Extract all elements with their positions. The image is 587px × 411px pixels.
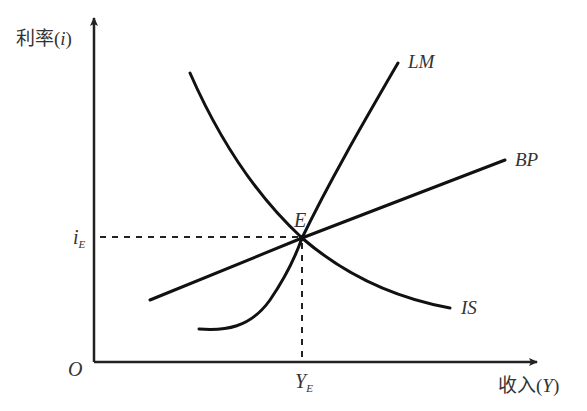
islm-bp-diagram: 利率(i) 收入(Y) O E iE YE LM BP IS	[0, 0, 587, 411]
bp-label: BP	[515, 149, 539, 170]
equilibrium-income-label: YE	[295, 370, 313, 394]
lm-curve	[199, 63, 398, 329]
x-axis-label: 收入(Y)	[498, 375, 559, 397]
lm-label: LM	[407, 51, 436, 72]
is-label: IS	[460, 297, 477, 318]
origin-label: O	[68, 358, 82, 380]
equilibrium-point-label: E	[293, 209, 306, 231]
y-axis-label: 利率(i)	[16, 28, 72, 50]
equilibrium-point	[299, 235, 305, 241]
equilibrium-rate-label: iE	[73, 226, 86, 250]
bp-curve	[150, 160, 505, 300]
is-curve	[190, 73, 450, 308]
